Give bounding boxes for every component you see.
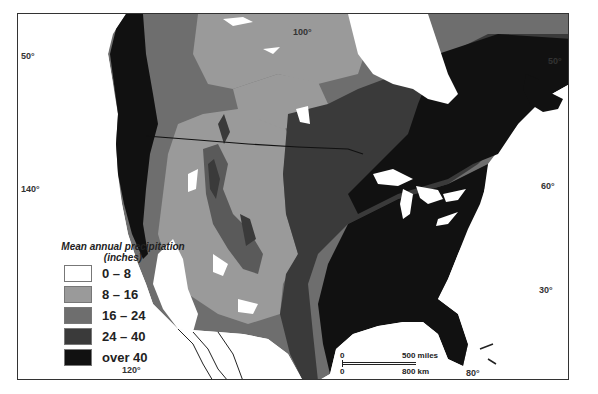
scale-bar: 0 500 miles 0 800 km <box>340 351 460 377</box>
legend-swatch <box>64 328 92 345</box>
lon-80-bottom-label: 80° <box>466 368 480 378</box>
legend-title: Mean annual precipitation (inches) <box>58 241 188 263</box>
legend-label: 8 – 16 <box>102 287 138 302</box>
legend-item: 24 – 40 <box>58 326 188 347</box>
scale-zero-miles: 0 <box>340 351 344 360</box>
legend-item: 0 – 8 <box>58 263 188 284</box>
legend-swatch <box>64 265 92 282</box>
lon-140-left-label: 140° <box>21 184 40 194</box>
lat-30-right-label: 30° <box>539 285 553 295</box>
legend-item: over 40 <box>58 347 188 368</box>
lat-50-left-label: 50° <box>21 51 35 61</box>
legend-swatch <box>64 307 92 324</box>
map-frame: 50° 100° 50° 140° 60° 30° 120° 80° Mean … <box>17 13 569 380</box>
legend-label: over 40 <box>102 350 148 365</box>
scale-zero-km: 0 <box>340 367 344 376</box>
legend-item: 16 – 24 <box>58 305 188 326</box>
legend-swatch <box>64 286 92 303</box>
legend-item: 8 – 16 <box>58 284 188 305</box>
scale-km-label: 800 km <box>402 367 429 376</box>
legend-label: 16 – 24 <box>102 308 145 323</box>
legend: Mean annual precipitation (inches) 0 – 8… <box>58 241 188 368</box>
scale-miles-label: 500 miles <box>402 351 438 360</box>
lon-100-top-label: 100° <box>293 27 312 37</box>
legend-label: 24 – 40 <box>102 329 145 344</box>
scale-line-top <box>342 362 416 363</box>
legend-swatch <box>64 349 92 366</box>
scale-line-bottom <box>342 364 416 365</box>
lat-50-right-label: 50° <box>548 56 562 66</box>
legend-label: 0 – 8 <box>102 266 131 281</box>
lat-60-right-label: 60° <box>541 181 555 191</box>
scale-tick-left <box>342 360 343 367</box>
